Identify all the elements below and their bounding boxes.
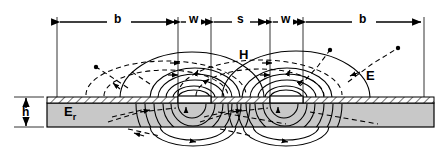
dim-label-b-right: b xyxy=(359,13,366,25)
substrate-permittivity-label: Er xyxy=(64,105,76,122)
e-field-label: E xyxy=(366,69,375,82)
dim-label-h: h xyxy=(22,106,29,118)
dim-label-w-right: w xyxy=(281,13,290,25)
cpw-field-diagram: b w s w b h H E Er xyxy=(0,0,443,152)
h-field-label: H xyxy=(239,48,248,61)
ground-left xyxy=(47,97,178,103)
epsilon-symbol: E xyxy=(64,104,73,119)
ground-center xyxy=(211,97,270,103)
dim-label-s: s xyxy=(237,13,244,25)
dim-label-w-left: w xyxy=(189,13,198,25)
ground-right xyxy=(303,97,434,103)
epsilon-subscript: r xyxy=(73,112,77,122)
diagram-canvas xyxy=(0,0,443,152)
strip-left xyxy=(178,96,211,103)
strip-right xyxy=(270,96,303,103)
ground-planes xyxy=(47,97,434,103)
dim-label-b-left: b xyxy=(114,13,121,25)
